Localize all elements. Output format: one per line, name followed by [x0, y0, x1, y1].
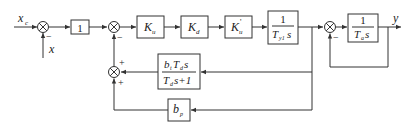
summing-junction-3 — [325, 22, 336, 33]
svg-text:1: 1 — [77, 22, 83, 34]
input-label: x c — [17, 11, 29, 27]
svg-text:u: u — [152, 28, 156, 36]
svg-text:a: a — [361, 35, 364, 41]
integrator-ta-block: 1 T a s — [348, 14, 378, 42]
svg-text:T: T — [272, 28, 279, 40]
kd-block: K d — [181, 16, 208, 38]
svg-text:b: b — [173, 102, 179, 116]
output-y-label: y — [392, 11, 399, 25]
summing-junction-4 — [109, 67, 120, 78]
svg-text:c: c — [25, 19, 29, 27]
svg-text:p: p — [179, 111, 183, 117]
svg-text:T: T — [173, 58, 180, 70]
integrator-ty-block: 1 T y1 s — [268, 11, 298, 44]
svg-text:s: s — [365, 28, 369, 40]
unity-gain-block: 1 — [71, 20, 89, 34]
svg-text:s: s — [184, 58, 188, 70]
svg-text:1: 1 — [360, 14, 366, 26]
svg-text:s+1: s+1 — [174, 74, 191, 86]
svg-text:T: T — [354, 28, 361, 40]
feedback-x-label: x — [48, 42, 55, 56]
svg-text:x: x — [17, 11, 24, 25]
sign-plus: + — [118, 77, 124, 88]
sign-minus: − — [333, 32, 339, 43]
ku-prime-block: K ' u — [225, 16, 252, 38]
permanent-droop-block: b p — [168, 99, 190, 121]
svg-text:d: d — [196, 28, 200, 36]
svg-text:T: T — [163, 74, 170, 86]
svg-text:y1: y1 — [278, 35, 285, 41]
ku-block: K u — [137, 16, 164, 38]
svg-text:s: s — [287, 28, 291, 40]
block-diagram: x c − x 1 − K u K d K ' u — [0, 0, 409, 133]
svg-text:u: u — [239, 28, 243, 36]
sign-plus: + — [119, 57, 125, 68]
transient-droop-block: b t T d s T d s+1 — [158, 54, 200, 89]
sign-minus: − — [46, 31, 52, 42]
sign-minus: − — [117, 32, 123, 43]
summing-junction-2 — [109, 22, 120, 33]
svg-text:1: 1 — [280, 13, 286, 25]
